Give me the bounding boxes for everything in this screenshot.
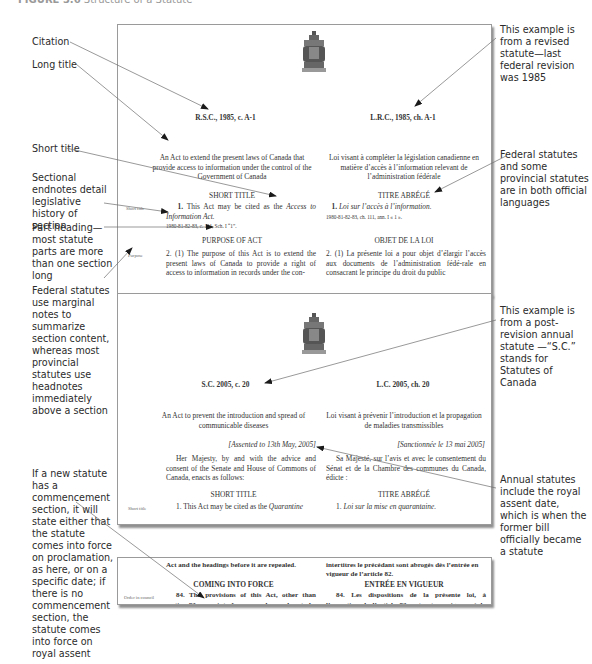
note-revised-statute: This example is from a revised statute—l… <box>500 24 590 84</box>
assent-date-en: [Assented to 13th May, 2005] <box>151 440 316 450</box>
section-1-fr: 1. Loi sur la mise en quarantaine. <box>326 502 486 512</box>
heading-short-title-fr: TITRE ABRÉGÉ <box>323 490 485 500</box>
note-marginal-notes: Federal statutes use marginal notes to s… <box>32 285 114 417</box>
citation-en: R.S.C., 1985, c. A-1 <box>138 113 313 123</box>
section-2-fr: 2. (1) La présente loi a pour objet d’él… <box>326 249 486 278</box>
marginal-note-purpose: Purpose <box>128 251 152 261</box>
section-1-fr: 1. Loi sur l’accès à l’information. <box>326 202 486 212</box>
citation-fr: L.C. 2005, ch. 20 <box>323 380 483 390</box>
coat-of-arms-icon <box>301 312 327 356</box>
citation-fr: L.R.C., 1985, ch. A-1 <box>323 113 483 123</box>
heading-coming-into-force-fr: ENTRÉE EN VIGUEUR <box>323 580 485 590</box>
section-1-en: 1. This Act may be cited as the Access t… <box>166 202 316 221</box>
marginal-note-order-in-council: Order in council <box>124 593 158 603</box>
repeal-text-fr: antérieure à celle-ci, l’article 102 de … <box>326 557 486 580</box>
long-title-fr: Loi visant à prévenir l’introduction et … <box>323 411 485 430</box>
heading-coming-into-force-en: COMING INTO FORCE <box>151 580 316 590</box>
note-commencement: If a new statute has a commencement sect… <box>32 468 114 660</box>
note-short-title: Short title <box>32 143 122 155</box>
enacting-clause-fr: Sa Majesté, sur l’avis et avec le consen… <box>326 454 486 483</box>
section-84-en: 84. The provisions of this Act, other th… <box>166 591 316 605</box>
heading-short-title-en: SHORT TITLE <box>151 490 316 500</box>
endnote-fr: 1980-81-82-83, ch. 111, ann. I « 1 ». <box>326 213 486 223</box>
endnote-en: 1980-81-82-83, c. 111, Sch. I “1”. <box>166 222 316 232</box>
citation-en: S.C. 2005, c. 20 <box>138 380 313 390</box>
long-title-en: An Act to prevent the introduction and s… <box>151 411 316 430</box>
marginal-note-short-title: Short title <box>128 504 152 514</box>
figure-label: FIGURE 3.6 <box>18 0 81 5</box>
note-bilingual: Federal statutes and some provincial sta… <box>500 149 590 209</box>
assent-date-fr: [Sanctionnée le 13 mai 2005] <box>323 440 485 450</box>
coat-of-arms-icon <box>301 30 327 74</box>
note-royal-assent: Annual statutes include the royal assent… <box>500 474 590 558</box>
figure-title: FIGURE 3.6 Structure of a Statute <box>18 0 192 5</box>
section-84-fr: 84. Les dispositions de la présente loi,… <box>326 591 486 605</box>
enacting-clause-en: Her Majesty, by and with the advice and … <box>166 454 316 483</box>
note-annual-statute: This example is from a post-revision ann… <box>500 305 590 389</box>
section-2-en: 2. (1) The purpose of this Act is to ext… <box>166 249 316 278</box>
heading-short-title-fr: TITRE ABRÉGÉ <box>323 191 485 201</box>
heading-short-title-en: SHORT TITLE <box>148 191 316 201</box>
document-revised-statute: R.S.C., 1985, c. A-1 L.R.C., 1985, ch. A… <box>117 24 492 296</box>
document-annual-statute: S.C. 2005, c. 20 L.C. 2005, ch. 20 An Ac… <box>117 293 492 525</box>
note-long-title: Long title <box>32 59 122 71</box>
long-title-en: An Act to extend the present laws of Can… <box>148 153 316 182</box>
figure-caption: Structure of a Statute <box>84 0 193 5</box>
note-part-heading: Part heading— most statute parts are mor… <box>32 222 114 282</box>
document-commencement-section: this Act comes into force, section 102 o… <box>117 557 492 605</box>
long-title-fr: Loi visant à compléter la législation ca… <box>323 153 485 182</box>
note-citation: Citation <box>32 36 122 48</box>
part-heading-fr: OBJET DE LA LOI <box>323 236 485 246</box>
repeal-text-en: this Act comes into force, section 102 o… <box>166 557 316 570</box>
marginal-note-short-title: Short title <box>126 204 150 214</box>
section-1-en: 1. This Act may be cited as the Quaranti… <box>166 502 321 512</box>
part-heading-en: PURPOSE OF ACT <box>148 236 316 246</box>
